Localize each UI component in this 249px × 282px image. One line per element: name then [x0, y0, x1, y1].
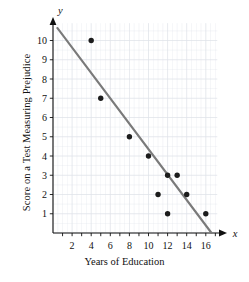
data-point: [174, 173, 179, 178]
data-point: [184, 192, 189, 197]
data-point: [89, 38, 94, 43]
x-tick-label: 14: [182, 240, 192, 251]
x-axis-ticks: 246810121416: [63, 233, 216, 251]
x-tick-label: 10: [144, 240, 154, 251]
y-tick-label: 9: [42, 54, 47, 65]
y-tick-label: 3: [42, 170, 47, 181]
data-point: [146, 153, 151, 158]
y-tick-label: 10: [37, 35, 47, 46]
y-tick-label: 5: [42, 131, 47, 142]
data-point: [155, 192, 160, 197]
data-point: [203, 211, 208, 216]
y-tick-label: 4: [42, 151, 47, 162]
y-tick-label: 6: [42, 112, 47, 123]
y-tick-label: 7: [42, 93, 47, 104]
y-tick-label: 1: [42, 208, 47, 219]
x-tick-label: 2: [70, 240, 75, 251]
plot-canvas: 246810121416 12345678910 yx: [0, 0, 249, 282]
data-point: [98, 96, 103, 101]
x-tick-label: 16: [201, 240, 211, 251]
y-axis-ticks: 12345678910: [37, 35, 53, 219]
x-tick-label: 4: [89, 240, 94, 251]
y-tick-label: 8: [42, 74, 47, 85]
x-tick-label: 6: [108, 240, 113, 251]
scatter-plot-figure: 246810121416 12345678910 yx Score on a T…: [0, 0, 249, 282]
x-axis-name: x: [232, 228, 238, 239]
data-point: [165, 173, 170, 178]
x-tick-label: 12: [163, 240, 173, 251]
data-point: [127, 134, 132, 139]
x-tick-label: 8: [127, 240, 132, 251]
data-point: [165, 211, 170, 216]
y-tick-label: 2: [42, 189, 47, 200]
y-axis-name: y: [57, 5, 63, 16]
